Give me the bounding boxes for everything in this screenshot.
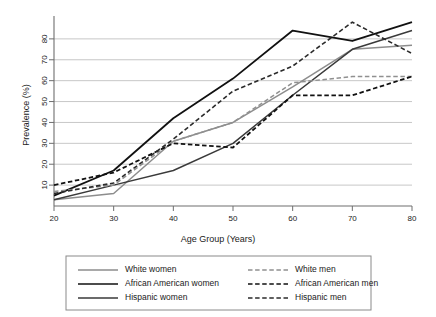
x-tick-label-50: 50 (229, 214, 238, 223)
legend-label-hispanic-men: Hispanic men (295, 292, 347, 302)
x-tick-label-30: 30 (109, 214, 118, 223)
y-tick-label-20: 20 (40, 159, 49, 168)
y-tick-label-30: 30 (40, 138, 49, 147)
prevalence-by-age-line-chart: 20304050607080 1020304050607080 Age Grou… (0, 0, 436, 317)
legend-label-white-men: White men (295, 264, 336, 274)
x-tick-label-60: 60 (288, 214, 297, 223)
y-tick-label-10: 10 (40, 180, 49, 189)
y-axis-title: Prevalence (%) (21, 84, 31, 146)
legend-label-hispanic-women: Hispanic women (125, 292, 188, 302)
y-tick-label-70: 70 (40, 55, 49, 64)
y-tick-label-40: 40 (40, 117, 49, 126)
legend-label-african-american-men: African American men (295, 278, 378, 288)
y-tick-label-60: 60 (40, 76, 49, 85)
legend-label-white-women: White women (125, 264, 177, 274)
y-tick-label-80: 80 (40, 34, 49, 43)
x-tick-label-70: 70 (348, 214, 357, 223)
legend-label-african-american-women: African American women (125, 278, 219, 288)
x-axis-title: Age Group (Years) (181, 234, 256, 244)
y-tick-label-50: 50 (40, 97, 49, 106)
x-tick-label-80: 80 (408, 214, 417, 223)
x-tick-label-40: 40 (169, 214, 178, 223)
x-tick-label-20: 20 (50, 214, 59, 223)
chart-figure: 20304050607080 1020304050607080 Age Grou… (0, 0, 436, 317)
